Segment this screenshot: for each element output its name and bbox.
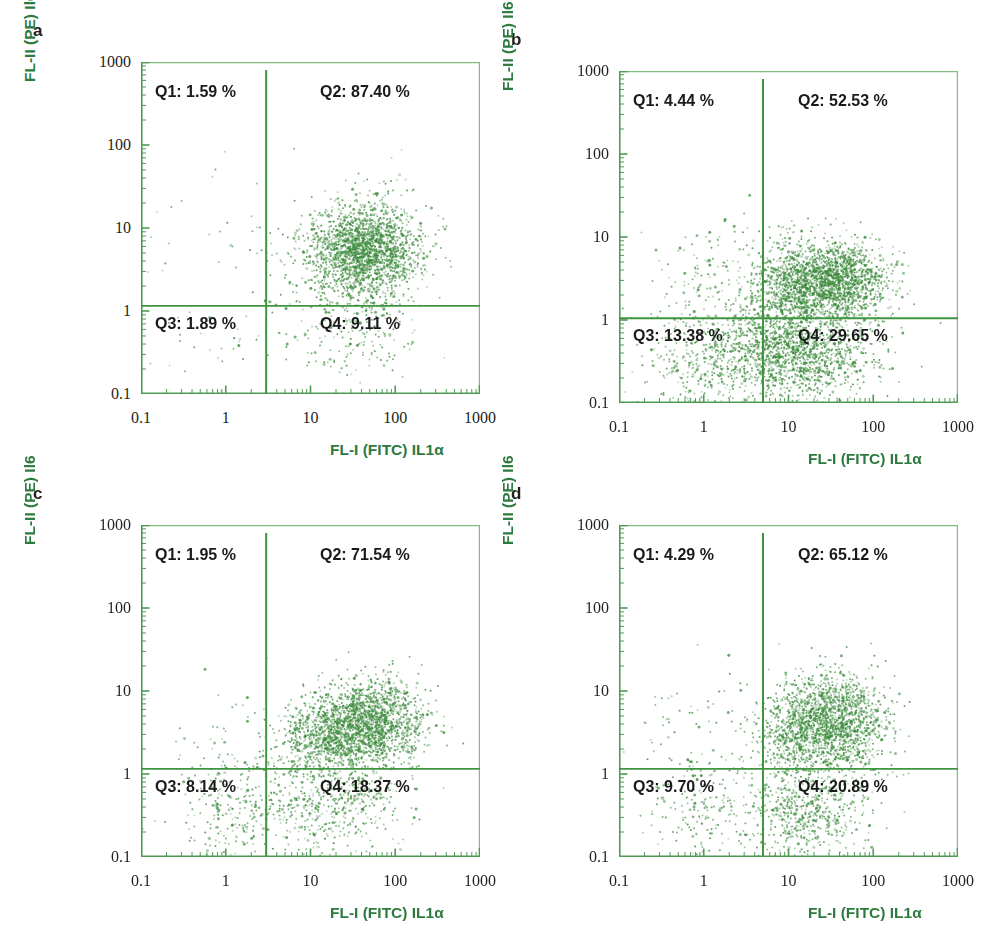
panel-b: bFL-II (PE) Il6FL-I (FITC) IL1α100010010… bbox=[0, 0, 983, 946]
plot-frame-c bbox=[141, 525, 480, 857]
x-tick-label: 10 bbox=[271, 410, 351, 426]
y-tick-label: 10 bbox=[533, 683, 609, 699]
x-tick-label: 0.1 bbox=[101, 410, 181, 426]
x-tick-label: 0.1 bbox=[579, 419, 659, 435]
y-axis-title: FL-II (PE) Il6 bbox=[21, 0, 39, 82]
quadrant-label-q4-b: Q4: 29.65 % bbox=[798, 328, 888, 344]
panel-letter-c: c bbox=[33, 485, 42, 502]
y-tick-label: 1000 bbox=[55, 517, 131, 533]
y-axis-title: FL-II (PE) Il6 bbox=[499, 455, 517, 545]
x-tick-label: 100 bbox=[355, 410, 435, 426]
panel-letter-a: a bbox=[33, 22, 42, 39]
scatter-dots-b bbox=[619, 71, 958, 403]
quadrant-label-q4-a: Q4: 9.11 % bbox=[320, 316, 400, 332]
y-tick-label: 10 bbox=[55, 683, 131, 699]
y-axis-title: FL-II (PE) Il6 bbox=[499, 1, 517, 91]
x-tick-label: 1 bbox=[186, 410, 266, 426]
x-tick-label: 10 bbox=[271, 873, 351, 889]
y-tick-label: 100 bbox=[55, 600, 131, 616]
x-axis-title: FL-I (FITC) IL1α bbox=[330, 441, 444, 459]
quadrant-label-q1-b: Q1: 4.44 % bbox=[633, 93, 714, 109]
x-tick-label: 1 bbox=[664, 873, 744, 889]
x-tick-label: 0.1 bbox=[579, 873, 659, 889]
y-tick-label: 1 bbox=[55, 766, 131, 782]
y-tick-label: 1 bbox=[533, 312, 609, 328]
x-tick-label: 1000 bbox=[918, 873, 983, 889]
y-tick-label: 10 bbox=[55, 220, 131, 236]
quadrant-label-q1-d: Q1: 4.29 % bbox=[633, 547, 714, 563]
x-tick-label: 1000 bbox=[918, 419, 983, 435]
quadrant-label-q3-d: Q3: 9.70 % bbox=[633, 779, 714, 795]
y-tick-label: 0.1 bbox=[533, 849, 609, 865]
panel-c: cFL-II (PE) Il6FL-I (FITC) IL1α100010010… bbox=[0, 0, 983, 946]
y-tick-label: 1000 bbox=[533, 517, 609, 533]
x-axis-title: FL-I (FITC) IL1α bbox=[330, 904, 444, 922]
x-tick-label: 0.1 bbox=[101, 873, 181, 889]
plot-frame-a bbox=[141, 62, 480, 394]
panel-a: aFL-II (PE) Il6FL-I (FITC) IL1α100010010… bbox=[0, 0, 983, 946]
panel-d: dFL-II (PE) Il6FL-I (FITC) IL1α100010010… bbox=[0, 0, 983, 946]
plot-area-a bbox=[141, 62, 480, 394]
plot-area-c bbox=[141, 525, 480, 857]
y-axis-title: FL-II (PE) Il6 bbox=[21, 455, 39, 545]
y-tick-label: 10 bbox=[533, 229, 609, 245]
quadrant-label-q2-d: Q2: 65.12 % bbox=[798, 547, 888, 563]
y-tick-label: 0.1 bbox=[55, 849, 131, 865]
y-tick-label: 1 bbox=[55, 303, 131, 319]
flow-cytometry-figure: aFL-II (PE) Il6FL-I (FITC) IL1α100010010… bbox=[0, 0, 983, 946]
x-axis-title: FL-I (FITC) IL1α bbox=[808, 450, 922, 468]
y-tick-label: 100 bbox=[533, 146, 609, 162]
panel-letter-b: b bbox=[511, 31, 521, 48]
plot-area-b bbox=[619, 71, 958, 403]
y-tick-label: 0.1 bbox=[55, 386, 131, 402]
y-tick-label: 1000 bbox=[55, 54, 131, 70]
scatter-dots-c bbox=[141, 525, 480, 857]
scatter-dots-d bbox=[619, 525, 958, 857]
quadrant-label-q2-b: Q2: 52.53 % bbox=[798, 93, 888, 109]
x-axis-title: FL-I (FITC) IL1α bbox=[808, 904, 922, 922]
x-tick-label: 1000 bbox=[440, 410, 520, 426]
y-tick-label: 1000 bbox=[533, 63, 609, 79]
quadrant-label-q1-a: Q1: 1.59 % bbox=[155, 84, 236, 100]
quadrant-label-q3-b: Q3: 13.38 % bbox=[633, 328, 723, 344]
y-tick-label: 0.1 bbox=[533, 395, 609, 411]
panel-letter-d: d bbox=[511, 485, 521, 502]
x-tick-label: 1 bbox=[186, 873, 266, 889]
y-tick-label: 100 bbox=[55, 137, 131, 153]
quadrant-label-q2-a: Q2: 87.40 % bbox=[320, 84, 410, 100]
plot-area-d bbox=[619, 525, 958, 857]
quadrant-label-q3-c: Q3: 8.14 % bbox=[155, 779, 236, 795]
quadrant-label-q4-d: Q4: 20.89 % bbox=[798, 779, 888, 795]
y-tick-label: 100 bbox=[533, 600, 609, 616]
quadrant-label-q4-c: Q4: 18.37 % bbox=[320, 779, 410, 795]
x-tick-label: 10 bbox=[749, 419, 829, 435]
x-tick-label: 100 bbox=[355, 873, 435, 889]
scatter-dots-a bbox=[141, 62, 480, 394]
x-tick-label: 100 bbox=[833, 419, 913, 435]
x-tick-label: 10 bbox=[749, 873, 829, 889]
y-tick-label: 1 bbox=[533, 766, 609, 782]
x-tick-label: 1 bbox=[664, 419, 744, 435]
plot-frame-d bbox=[619, 525, 958, 857]
x-tick-label: 1000 bbox=[440, 873, 520, 889]
quadrant-label-q1-c: Q1: 1.95 % bbox=[155, 547, 236, 563]
quadrant-label-q3-a: Q3: 1.89 % bbox=[155, 316, 236, 332]
plot-frame-b bbox=[619, 71, 958, 403]
x-tick-label: 100 bbox=[833, 873, 913, 889]
quadrant-label-q2-c: Q2: 71.54 % bbox=[320, 547, 410, 563]
